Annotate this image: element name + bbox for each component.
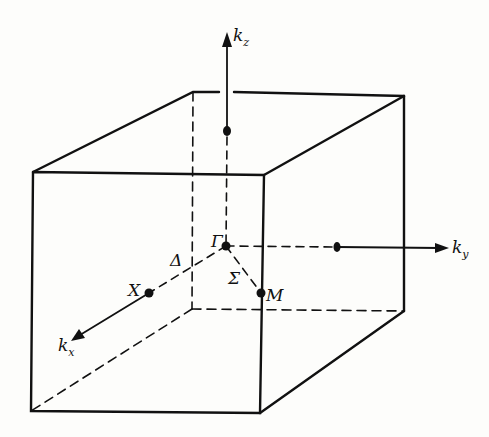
kz-arrow-icon — [222, 32, 232, 47]
kz-label: kz — [233, 27, 249, 44]
x-point-dot — [145, 289, 154, 298]
ky-arrow-icon — [435, 243, 449, 253]
cube-drawing — [0, 0, 489, 437]
cube-solid-edges — [31, 92, 404, 413]
gamma-label: Γ — [211, 233, 223, 250]
sigma-label: Σ — [228, 270, 240, 287]
kx-label: kx — [58, 337, 75, 354]
m-point-dot — [257, 289, 266, 298]
symmetry-points — [145, 126, 341, 298]
brillouin-zone-diagram: kz ky kx Γ Δ Σ X M — [0, 0, 489, 437]
y-point-dot — [334, 242, 341, 252]
x-point-label: X — [128, 282, 140, 299]
delta-label: Δ — [170, 252, 182, 269]
ky-label: ky — [452, 239, 469, 256]
cube-hidden-edges — [31, 92, 404, 411]
m-point-label: M — [266, 287, 283, 304]
z-point-dot — [223, 126, 231, 136]
